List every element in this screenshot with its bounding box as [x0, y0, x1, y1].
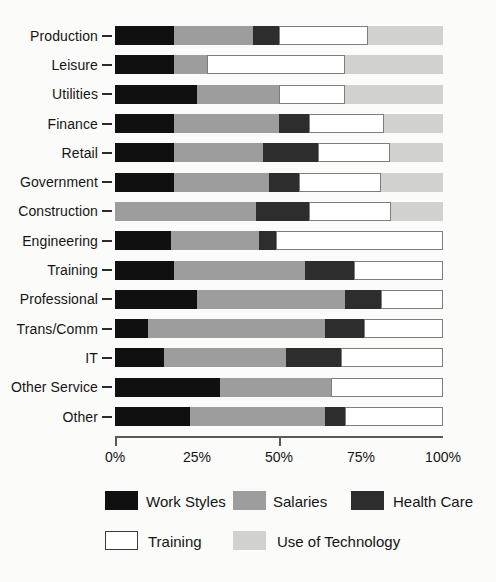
bar-row: Training	[0, 255, 496, 284]
bar-segment	[148, 319, 325, 338]
bar-segment	[354, 261, 443, 280]
x-axis-tick-labels: 0%25%50%75%100%	[115, 449, 443, 467]
bar-segment	[174, 26, 253, 45]
bar-row: Professional	[0, 285, 496, 314]
bar-segment	[384, 114, 443, 133]
bar-segment	[174, 261, 305, 280]
bar-row: Leisure	[0, 50, 496, 79]
bar-segment	[269, 173, 299, 192]
category-label: IT	[0, 350, 98, 366]
bar-segment	[174, 114, 279, 133]
bar-row: IT	[0, 343, 496, 372]
category-label: Government	[0, 174, 98, 190]
bar-segment	[318, 143, 390, 162]
category-tick-dash	[102, 240, 112, 242]
bar-segment	[115, 319, 148, 338]
bar-row: Production	[0, 21, 496, 50]
legend-swatch-salaries	[233, 491, 266, 510]
bar-row: Other Service	[0, 373, 496, 402]
legend-label-salaries: Salaries	[273, 493, 327, 510]
bar-segment	[305, 261, 354, 280]
bar-segment	[171, 231, 260, 250]
bar-segment	[286, 348, 342, 367]
category-tick-dash	[102, 416, 112, 418]
axis-tick-label: 0%	[105, 449, 125, 465]
category-label: Professional	[0, 291, 98, 307]
category-label: Retail	[0, 145, 98, 161]
stacked-bar	[115, 261, 443, 280]
stacked-bar	[115, 55, 443, 74]
legend-label-health-care: Health Care	[393, 493, 473, 510]
bar-segment	[115, 202, 256, 221]
axis-tick-label: 100%	[425, 449, 461, 465]
legend-swatch-use-of-technology	[233, 531, 266, 550]
bar-row: Other	[0, 402, 496, 431]
category-label: Other Service	[0, 379, 98, 395]
x-axis-line	[115, 436, 443, 447]
category-tick-dash	[102, 35, 112, 37]
category-tick-dash	[102, 269, 112, 271]
legend-label-work-styles: Work Styles	[146, 493, 226, 510]
bar-segment	[115, 55, 174, 74]
bar-segment	[345, 55, 443, 74]
bar-row: Construction	[0, 197, 496, 226]
bar-segment	[259, 231, 275, 250]
category-tick-dash	[102, 152, 112, 154]
category-label: Other	[0, 409, 98, 425]
category-tick-dash	[102, 357, 112, 359]
bar-segment	[256, 202, 308, 221]
bar-row: Engineering	[0, 226, 496, 255]
stacked-bar	[115, 173, 443, 192]
category-label: Trans/Comm	[0, 321, 98, 337]
bar-segment	[115, 290, 197, 309]
bar-segment	[279, 26, 368, 45]
bar-segment	[115, 173, 174, 192]
category-label: Construction	[0, 203, 98, 219]
bar-segment	[174, 143, 263, 162]
legend-swatch-work-styles	[105, 491, 138, 510]
bar-row: Finance	[0, 109, 496, 138]
bar-segment	[115, 378, 220, 397]
stacked-bar	[115, 319, 443, 338]
legend-swatch-health-care	[351, 491, 384, 510]
bar-segment	[390, 143, 442, 162]
bar-segment	[325, 407, 345, 426]
bar-segment	[368, 26, 443, 45]
bar-segment	[345, 290, 381, 309]
bar-row: Retail	[0, 138, 496, 167]
category-tick-dash	[102, 298, 112, 300]
bar-segment	[115, 261, 174, 280]
stacked-bar	[115, 202, 443, 221]
category-label: Engineering	[0, 233, 98, 249]
category-label: Training	[0, 262, 98, 278]
bar-segment	[115, 26, 174, 45]
stacked-bar	[115, 407, 443, 426]
axis-tick-label: 75%	[347, 449, 375, 465]
category-tick-dash	[102, 386, 112, 388]
category-tick-dash	[102, 123, 112, 125]
stacked-bar	[115, 348, 443, 367]
bar-row: Trans/Comm	[0, 314, 496, 343]
stacked-bar	[115, 26, 443, 45]
stacked-bar-chart: ProductionLeisureUtilitiesFinanceRetailG…	[0, 0, 496, 582]
legend-label-training: Training	[148, 533, 202, 550]
stacked-bar	[115, 114, 443, 133]
bar-segment	[309, 202, 391, 221]
bar-segment	[197, 290, 345, 309]
bar-segment	[220, 378, 332, 397]
bar-segment	[115, 143, 174, 162]
stacked-bar	[115, 290, 443, 309]
bar-segment	[331, 378, 443, 397]
bar-segment	[115, 231, 171, 250]
bar-segment	[207, 55, 345, 74]
category-label: Leisure	[0, 57, 98, 73]
legend-label-use-of-technology: Use of Technology	[277, 533, 400, 550]
bar-segment	[276, 231, 443, 250]
category-label: Production	[0, 28, 98, 44]
bar-segment	[115, 114, 174, 133]
bar-segment	[164, 348, 285, 367]
bar-segment	[381, 173, 443, 192]
category-label: Finance	[0, 116, 98, 132]
axis-tick-mark	[279, 438, 281, 446]
bar-segment	[345, 407, 443, 426]
